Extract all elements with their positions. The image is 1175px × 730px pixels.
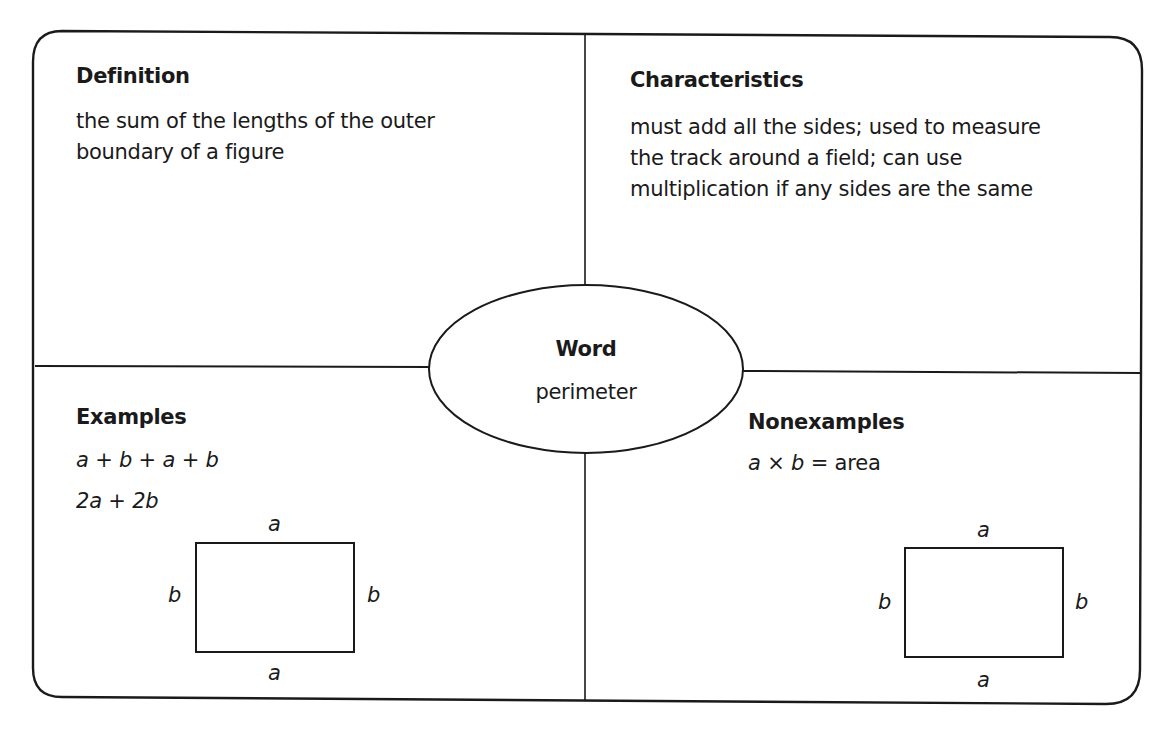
nonexamples-var-b: b: [791, 451, 804, 475]
nonexamples-equals: =: [811, 451, 828, 475]
examples-expression-2: 2a + 2b: [76, 489, 158, 513]
nonexamples-var-a: a: [748, 451, 761, 475]
definition-line-2: boundary of a figure: [76, 137, 284, 167]
definition-line-1: the sum of the lengths of the outer: [76, 106, 435, 136]
examples-label-bottom: a: [268, 661, 281, 685]
center-ellipse: [429, 285, 743, 453]
characteristics-line-2: the track around a field; can use: [630, 143, 962, 173]
nonexamples-expression: a × b = area: [748, 451, 881, 475]
horizontal-divider-right: [742, 371, 1141, 373]
examples-label-right: b: [367, 583, 380, 607]
nonexamples-label-left: b: [878, 590, 891, 614]
examples-heading: Examples: [76, 405, 187, 429]
definition-heading: Definition: [76, 64, 190, 88]
examples-rectangle: [196, 543, 354, 652]
nonexamples-heading: Nonexamples: [748, 410, 904, 434]
nonexamples-rectangle: [905, 548, 1063, 657]
characteristics-line-1: must add all the sides; used to measure: [630, 112, 1041, 142]
examples-label-left: b: [168, 583, 181, 607]
center-word-heading: Word: [486, 337, 686, 361]
examples-label-top: a: [268, 512, 281, 536]
characteristics-heading: Characteristics: [630, 68, 804, 92]
nonexamples-result: area: [835, 451, 881, 475]
horizontal-divider-left: [35, 366, 430, 367]
nonexamples-times: ×: [767, 451, 784, 475]
nonexamples-label-top: a: [977, 518, 990, 542]
center-term: perimeter: [486, 380, 686, 404]
characteristics-line-3: multiplication if any sides are the same: [630, 174, 1033, 204]
examples-expression-1: a + b + a + b: [76, 448, 219, 472]
nonexamples-label-bottom: a: [977, 668, 990, 692]
nonexamples-label-right: b: [1075, 590, 1088, 614]
